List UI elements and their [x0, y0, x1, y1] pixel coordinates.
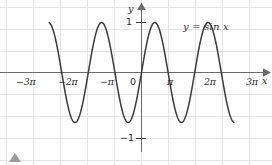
x-tick-label-minus-3pi: −3π	[16, 77, 36, 87]
sine-graph-figure: y x 0 1 −1 −3π −2π −π π 2π 3π y = sin x	[0, 0, 272, 165]
equation-label: y = sin x	[183, 22, 229, 32]
x-tick-label-3pi: 3π	[246, 77, 258, 87]
x-axis-label: x	[262, 76, 267, 86]
x-tick-label-minus-pi: −π	[100, 77, 114, 87]
triangle-marker-icon	[9, 153, 21, 162]
origin-label: 0	[130, 77, 136, 87]
x-tick-label-pi: π	[167, 77, 173, 87]
y-tick-label-1: 1	[126, 17, 132, 27]
y-axis-label: y	[128, 4, 133, 14]
x-tick-label-minus-2pi: −2π	[58, 77, 78, 87]
x-tick-label-2pi: 2π	[204, 77, 216, 87]
y-tick-label-minus-1: −1	[120, 133, 134, 143]
